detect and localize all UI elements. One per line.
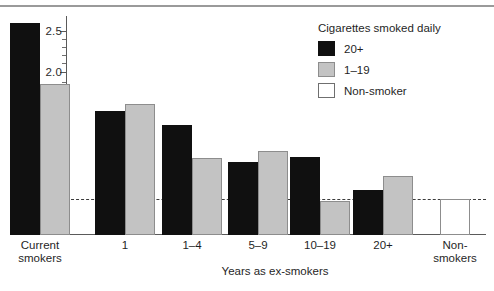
bar [258, 151, 288, 235]
figure: Mortality ratios 1.01.21.51.72.02.5 Ciga… [0, 0, 494, 291]
bar [192, 158, 222, 235]
y-minor-tick [62, 55, 66, 56]
y-tick-label: 2.0 [45, 66, 62, 78]
legend-swatch-gray [318, 62, 335, 77]
bar [10, 23, 40, 235]
legend-swatch-white [318, 83, 335, 98]
bar [228, 162, 258, 235]
bar [125, 104, 155, 235]
legend-title: Cigarettes smoked daily [318, 22, 441, 34]
bar [440, 199, 470, 235]
x-category-label: Current smokers [0, 239, 85, 265]
y-minor-tick [62, 39, 66, 40]
bar [353, 190, 383, 235]
legend: Cigarettes smoked daily 20+ 1–19 Non-smo… [318, 22, 441, 104]
bar [95, 111, 125, 235]
y-tick-label: 2.5 [45, 25, 62, 37]
y-minor-tick [62, 47, 66, 48]
bar [290, 157, 320, 235]
legend-item-non-smoker: Non-smoker [318, 83, 441, 98]
x-category-label: Non- smokers [410, 239, 494, 265]
y-minor-tick [62, 63, 66, 64]
y-minor-tick [62, 82, 66, 83]
scan-rule-divider [0, 5, 494, 7]
bar [162, 125, 192, 235]
bar [320, 201, 350, 235]
bar [383, 176, 413, 235]
legend-label-1-19: 1–19 [344, 64, 370, 76]
legend-item-20plus: 20+ [318, 41, 441, 56]
legend-swatch-black [318, 41, 335, 56]
legend-label-non-smoker: Non-smoker [344, 85, 407, 97]
bar [40, 84, 70, 235]
x-axis-title: Years as ex-smokers [150, 265, 400, 277]
legend-item-1-19: 1–19 [318, 62, 441, 77]
legend-label-20plus: 20+ [344, 43, 364, 55]
